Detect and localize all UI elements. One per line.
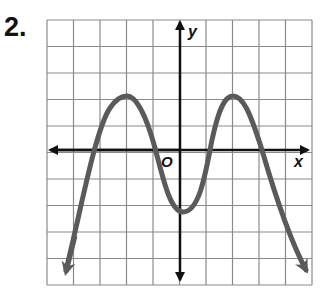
polynomial-curve bbox=[66, 96, 306, 270]
y-axis-label: y bbox=[187, 23, 198, 40]
graph: y x O bbox=[0, 0, 326, 293]
axes bbox=[50, 22, 308, 280]
x-axis-label: x bbox=[293, 153, 304, 170]
origin-label: O bbox=[161, 153, 173, 170]
